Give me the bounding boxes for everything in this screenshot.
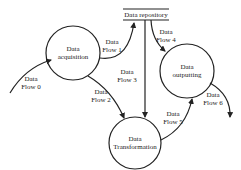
flow2-line2: Flow 2 [88,96,114,104]
flow0-line2: Flow 0 [18,83,44,91]
flow4-line2: Flow 4 [153,36,179,44]
repository-label: Data repository [123,11,169,19]
process-acquisition-line1: Data [48,45,98,53]
flow4-line1: Data [153,28,179,36]
flow2-line1: Data [88,88,114,96]
process-transformation-line1: Data [105,135,165,143]
flow5-line1: Data [160,110,186,118]
process-acquisition-line2: acquisition [48,53,98,61]
flow4-label: Data Flow 4 [153,28,179,44]
flow3-line2: Flow 3 [114,76,140,84]
flow0-line1: Data [18,75,44,83]
process-outputting-line2: outputting [162,71,212,79]
process-outputting-label: Data outputting [162,63,212,79]
flow1-label: Data Flow 1 [99,38,125,54]
flow3-line1: Data [114,68,140,76]
flow5-label: Data Flow 5 [160,110,186,126]
process-transformation-label: Data Transformation [105,135,165,151]
flow3-label: Data Flow 3 [114,68,140,84]
process-outputting-line1: Data [162,63,212,71]
flow1-line2: Flow 1 [99,46,125,54]
flow5-line2: Flow 5 [160,118,186,126]
flow6-line2: Flow 6 [200,99,226,107]
flow6-label: Data Flow 6 [200,91,226,107]
flow2-label: Data Flow 2 [88,88,114,104]
process-transformation-line2: Transformation [105,143,165,151]
process-acquisition-label: Data acquisition [48,45,98,61]
flow6-line1: Data [200,91,226,99]
flow0-label: Data Flow 0 [18,75,44,91]
flow1-line1: Data [99,38,125,46]
